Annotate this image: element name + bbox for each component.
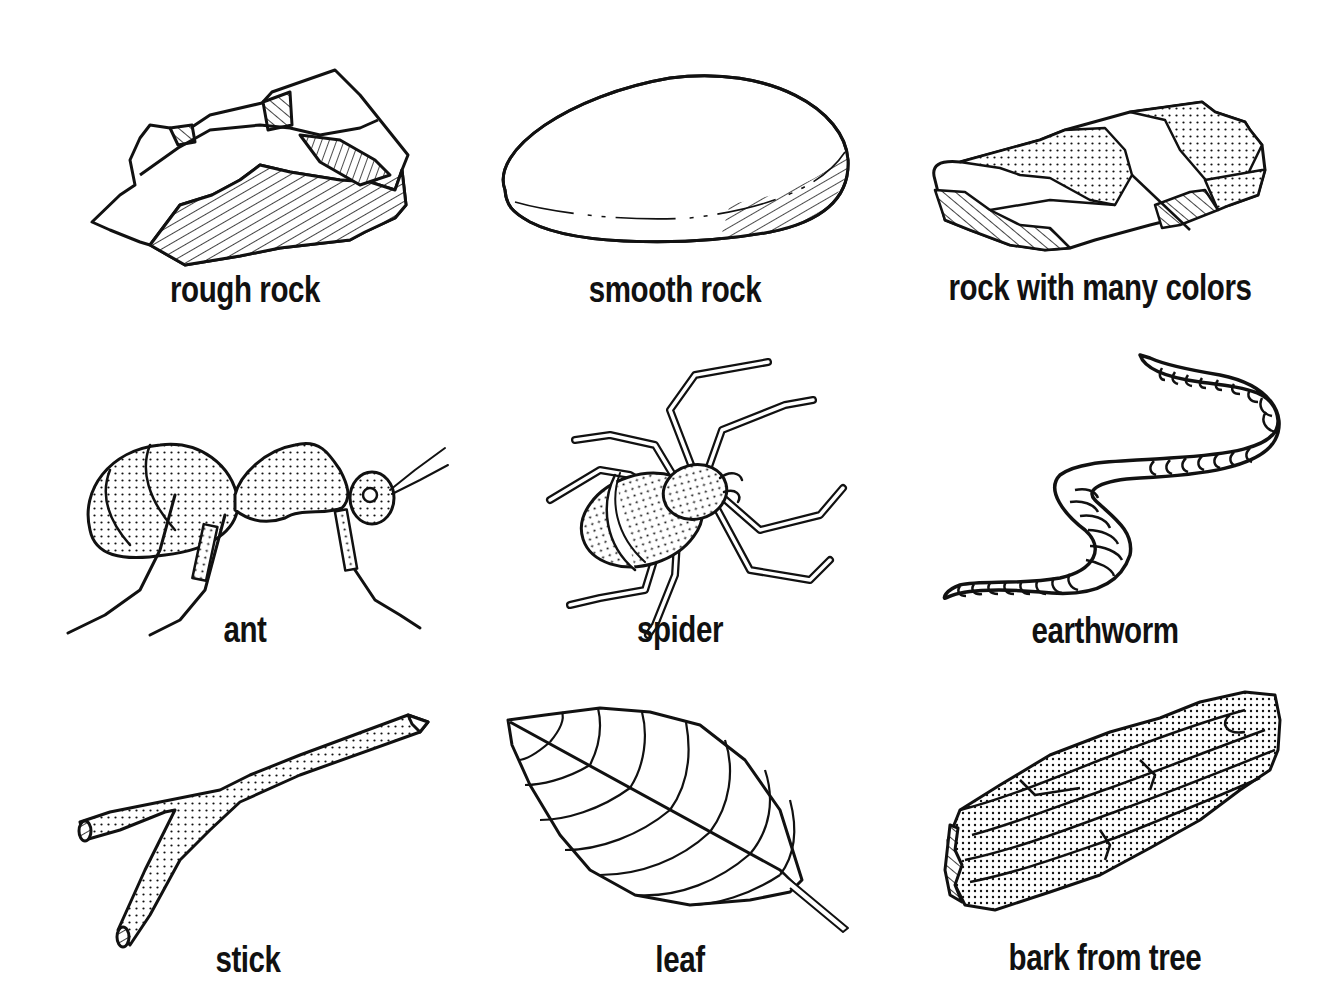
label-stick: stick: [166, 942, 330, 978]
label-smooth-rock: smooth rock: [552, 272, 798, 308]
label-leaf: leaf: [598, 942, 762, 978]
label-rough-rock: rough rock: [130, 272, 360, 308]
label-spider: spider: [598, 612, 762, 648]
item-stick: stick: [0, 660, 450, 1002]
item-rock-many-colors: rock with many colors: [900, 0, 1343, 330]
item-rough-rock: rough rock: [0, 0, 450, 330]
illustration-sheet: rough rock smooth rock rock with many co…: [0, 0, 1343, 1002]
label-bark: bark from tree: [978, 940, 1232, 976]
label-earthworm: earthworm: [1019, 613, 1191, 649]
item-smooth-rock: smooth rock: [450, 0, 900, 330]
label-ant: ant: [163, 612, 327, 648]
item-ant: ant: [0, 330, 450, 660]
label-rock-many-colors: rock with many colors: [928, 270, 1272, 306]
item-earthworm: earthworm: [900, 330, 1343, 660]
item-leaf: leaf: [450, 660, 900, 1002]
item-spider: spider: [450, 330, 900, 660]
item-bark: bark from tree: [900, 660, 1343, 1002]
